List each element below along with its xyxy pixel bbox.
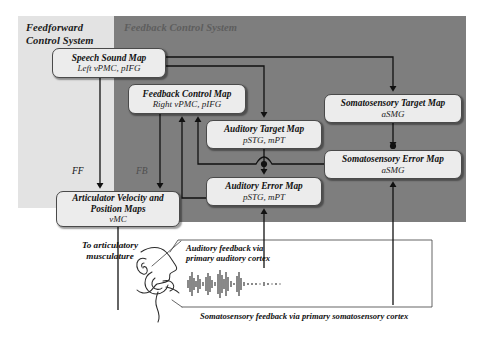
auditory-error-map-region: pSTG, mPT [243, 192, 285, 202]
tongue-outline [152, 278, 162, 289]
feedforward-label-line2: Control System [26, 35, 94, 46]
feedback-abbrev-label: FB [136, 166, 148, 177]
node-auditory-error-map[interactable]: Auditory Error Map pSTG, mPT [206, 177, 322, 206]
somatosensory-error-map-title: Somatosensory Error Map [342, 154, 444, 165]
vocal-tract-outline [145, 272, 168, 294]
feedforward-system-label: Feedforward Control System [26, 22, 110, 47]
somatosensory-callout-leader [172, 300, 182, 307]
larynx-trachea-outline [156, 292, 159, 322]
ear-inner-icon [142, 263, 144, 267]
to-articulatory-line2: musculature [86, 251, 133, 261]
node-articulator-velocity-position-maps[interactable]: Articulator Velocity and Position Maps v… [56, 191, 180, 227]
speech-waveform [186, 270, 280, 298]
lips-outline [163, 281, 174, 291]
somatosensory-target-map-title: Somatosensory Target Map [341, 98, 446, 109]
auditory-feedback-line1: Auditory feedback via [186, 243, 263, 253]
jaw-line [166, 287, 179, 293]
articulator-maps-title-line2: Position Maps [90, 204, 145, 215]
feedforward-label-line1: Feedforward [26, 22, 83, 33]
somatosensory-target-map-region: aSMG [382, 109, 405, 119]
feedback-control-map-title: Feedback Control Map [143, 89, 232, 100]
node-feedback-control-map[interactable]: Feedback Control Map Right vPMC, pIFG [128, 84, 246, 114]
somatosensory-error-map-region: aSMG [382, 165, 405, 175]
speech-sound-map-region: Left vPMC, pIFG [77, 63, 140, 73]
node-auditory-target-map[interactable]: Auditory Target Map pSTG, mPT [206, 120, 322, 149]
speech-sound-map-title: Speech Sound Map [72, 53, 146, 64]
feedback-system-label: Feedback Control System [124, 22, 324, 35]
articulator-maps-region: vMC [109, 214, 127, 224]
auditory-feedback-line2: primary auditory cortex [186, 253, 270, 263]
auditory-feedback-label: Auditory feedback via primary auditory c… [186, 243, 316, 263]
auditory-target-map-region: pSTG, mPT [243, 135, 285, 145]
node-somatosensory-error-map[interactable]: Somatosensory Error Map aSMG [324, 150, 462, 179]
to-articulatory-musculature-label: To articulatory musculature [62, 240, 158, 262]
diva-model-diagram: Feedforward Control System Feedback Cont… [0, 0, 478, 345]
feedback-control-map-region: Right vPMC, pIFG [153, 99, 222, 109]
node-speech-sound-map[interactable]: Speech Sound Map Left vPMC, pIFG [52, 48, 166, 78]
auditory-error-map-title: Auditory Error Map [225, 181, 303, 192]
somatosensory-feedback-label: Somatosensory feedback via primary somat… [200, 311, 408, 322]
feedforward-abbrev-label: FF [72, 166, 84, 177]
to-articulatory-line1: To articulatory [82, 240, 138, 250]
articulator-maps-title-line1: Articulator Velocity and [72, 193, 163, 204]
node-somatosensory-target-map[interactable]: Somatosensory Target Map aSMG [324, 94, 462, 123]
auditory-target-map-title: Auditory Target Map [224, 124, 304, 135]
